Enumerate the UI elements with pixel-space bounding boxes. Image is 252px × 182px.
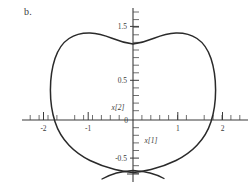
x-tick-label-zero: 0 (124, 116, 128, 125)
x-tick-label-neg1: -1 (85, 124, 91, 133)
x-axis-minor-ticks (30, 115, 240, 120)
y-tick-label-0p5: 0.5 (118, 76, 128, 85)
figure-panel: b. (0, 0, 252, 182)
x-tick-label-pos2: 2 (221, 124, 225, 133)
x-tick-label-neg2: -2 (40, 124, 46, 133)
y-tick-label-neg0p5: -0.5 (115, 154, 127, 163)
y-axis-minor-ticks (133, 12, 139, 173)
phase-plane-plot: -2 -1 0 1 2 1.5 0.5 -0.5 x[2] x[1] (0, 0, 252, 182)
x-axis-label: x[1] (144, 136, 158, 145)
x-tick-label-pos1: 1 (176, 124, 180, 133)
panel-label: b. (24, 6, 32, 17)
y-axis-label: x[2] (111, 103, 125, 112)
y-tick-label-1p5: 1.5 (118, 22, 128, 31)
